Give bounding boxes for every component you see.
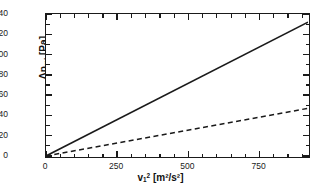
x-tick-400 [159, 154, 160, 158]
y-tick-60 [46, 94, 52, 95]
x-tick-top-900 [302, 14, 303, 18]
y-tick-right-80 [303, 74, 309, 75]
x-tick-300 [131, 154, 132, 158]
y-tick-right-40 [303, 115, 309, 116]
y-tick-right-0 [303, 155, 309, 156]
y-tick-right-10 [306, 145, 310, 146]
figure-chart: Δprel [Pa] v12 [m²/s²] 02040608010012014… [0, 0, 321, 191]
y-tick-right-30 [306, 125, 310, 126]
x-tick-50 [60, 154, 61, 158]
x-tick-top-750 [259, 14, 260, 20]
x-tick-750 [259, 151, 260, 157]
x-tick-top-100 [74, 14, 75, 18]
x-tick-top-200 [102, 14, 103, 18]
x-tick-600 [216, 154, 217, 158]
x-tick-label-500: 500 [167, 162, 207, 171]
y-tick-right-90 [306, 64, 310, 65]
y-tick-80 [46, 74, 52, 75]
x-tick-700 [245, 154, 246, 158]
y-tick-100 [46, 54, 52, 55]
y-tick-140 [46, 13, 52, 14]
y-tick-40 [46, 115, 52, 116]
x-tick-top-600 [216, 14, 217, 18]
x-tick-650 [231, 154, 232, 158]
y-tick-70 [46, 84, 50, 85]
x-tick-label-750: 750 [239, 162, 279, 171]
y-tick-label-120: 120 [0, 29, 8, 38]
x-tick-label-0: 0 [25, 162, 65, 171]
y-tick-10 [46, 145, 50, 146]
y-tick-label-60: 60 [0, 90, 8, 99]
x-tick-top-850 [287, 14, 288, 18]
y-tick-50 [46, 105, 50, 106]
y-tick-110 [46, 44, 50, 45]
series-dashed-line [46, 108, 308, 156]
y-tick-label-140: 140 [0, 9, 8, 18]
x-tick-top-350 [145, 14, 146, 18]
y-tick-right-50 [306, 105, 310, 106]
x-tick-200 [102, 154, 103, 158]
y-tick-label-100: 100 [0, 50, 8, 59]
y-tick-90 [46, 64, 50, 65]
x-tick-0 [45, 151, 46, 157]
x-axis-unit-text: [m²/s²] [153, 172, 184, 183]
x-tick-top-700 [245, 14, 246, 18]
plot-frame [45, 13, 310, 158]
x-tick-150 [88, 154, 89, 158]
x-tick-top-800 [273, 14, 274, 18]
y-tick-20 [46, 135, 52, 136]
x-tick-label-250: 250 [96, 162, 136, 171]
x-tick-450 [174, 154, 175, 158]
y-tick-right-120 [303, 34, 309, 35]
x-tick-top-150 [88, 14, 89, 18]
y-tick-right-100 [303, 54, 309, 55]
y-tick-label-20: 20 [0, 131, 8, 140]
y-tick-label-80: 80 [0, 70, 8, 79]
x-tick-top-450 [174, 14, 175, 18]
x-tick-850 [287, 154, 288, 158]
x-tick-800 [273, 154, 274, 158]
x-tick-900 [302, 154, 303, 158]
y-tick-right-60 [303, 94, 309, 95]
x-tick-top-550 [202, 14, 203, 18]
x-tick-350 [145, 154, 146, 158]
x-tick-top-0 [45, 14, 46, 20]
plot-area [46, 14, 309, 157]
data-series-group [46, 14, 308, 156]
series-solid-line [46, 22, 308, 156]
x-tick-550 [202, 154, 203, 158]
y-tick-right-110 [306, 44, 310, 45]
y-tick-130 [46, 24, 50, 25]
y-tick-right-20 [303, 135, 309, 136]
y-tick-label-0: 0 [0, 151, 8, 160]
x-tick-250 [116, 151, 117, 157]
x-axis-title: v12 [m²/s²] [0, 172, 321, 183]
x-tick-top-650 [231, 14, 232, 18]
x-tick-top-300 [131, 14, 132, 18]
y-tick-0 [46, 155, 52, 156]
x-tick-500 [188, 151, 189, 157]
x-tick-top-50 [60, 14, 61, 18]
y-tick-label-40: 40 [0, 110, 8, 119]
x-tick-100 [74, 154, 75, 158]
y-tick-120 [46, 34, 52, 35]
x-tick-top-400 [159, 14, 160, 18]
y-tick-30 [46, 125, 50, 126]
y-tick-right-130 [306, 24, 310, 25]
y-tick-right-70 [306, 84, 310, 85]
x-tick-top-250 [116, 14, 117, 20]
y-tick-right-140 [303, 13, 309, 14]
x-tick-top-500 [188, 14, 189, 20]
